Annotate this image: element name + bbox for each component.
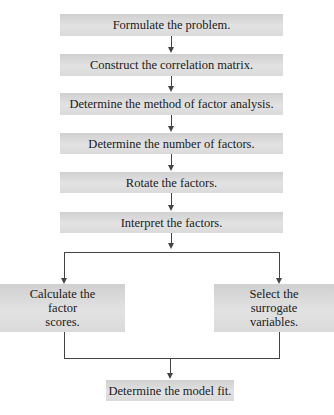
arrow-down-icon [167,373,173,379]
step-label-line: variables. [250,315,298,329]
connector-line [279,252,280,279]
step-label-line: scores. [45,315,79,329]
step-label-line: Select the [250,287,299,301]
connector-line [64,252,65,279]
step-construct-correlation-matrix: Construct the correlation matrix. [60,54,283,76]
arrow-down-icon [168,86,174,92]
step-formulate-problem: Formulate the problem. [60,14,283,36]
branch-split-line [64,252,280,253]
step-label-line: surrogate [251,301,298,315]
step-interpret-factors: Interpret the factors. [60,212,283,233]
step-label-line: factor [48,301,77,315]
connector-line [64,332,65,358]
step-rotate-factors: Rotate the factors. [60,172,283,193]
step-label: Determine the number of factors. [88,137,254,151]
step-determine-model-fit: Determine the model fit. [106,380,234,401]
connector-line [170,358,171,374]
step-label-line: Calculate the [30,287,96,301]
arrow-down-icon [168,165,174,171]
step-label: Determine the method of factor analysis. [69,97,273,111]
step-label: Interpret the factors. [121,216,223,230]
step-calculate-factor-scores: Calculate the factor scores. [0,284,125,332]
step-label: Construct the correlation matrix. [90,58,253,72]
arrow-down-icon [168,126,174,132]
connector-line [279,332,280,358]
arrow-down-icon [168,47,174,53]
step-label: Formulate the problem. [113,18,231,32]
step-label: Determine the model fit. [109,384,232,398]
arrow-down-icon [168,243,174,249]
step-label: Rotate the factors. [126,176,217,190]
step-determine-number-of-factors: Determine the number of factors. [60,133,283,154]
branch-join-line [64,358,280,359]
step-select-surrogate-variables: Select the surrogate variables. [214,284,334,332]
arrow-down-icon [168,205,174,211]
step-determine-method: Determine the method of factor analysis. [60,93,283,115]
